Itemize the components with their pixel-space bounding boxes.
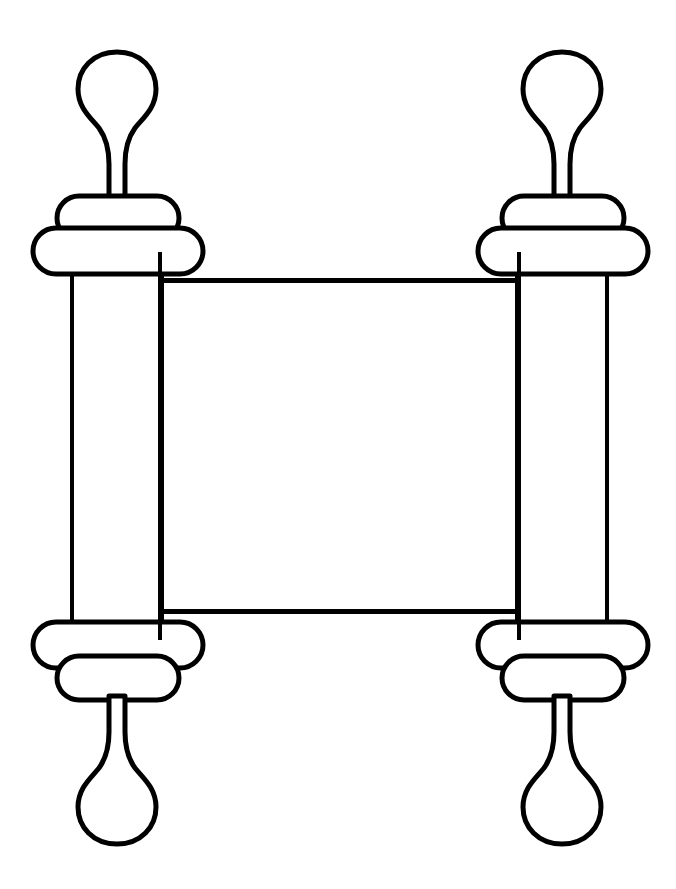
torah-scroll-illustration: [0, 0, 676, 889]
parchment-panel: [160, 280, 518, 612]
right-roller-shaft: [517, 250, 607, 642]
left-bottom-collar-inner: [57, 656, 179, 700]
artboard: [0, 0, 676, 889]
right-bottom-collar-inner: [502, 656, 624, 700]
left-roller-shaft: [72, 250, 162, 642]
right-top-collar-outer: [478, 228, 648, 274]
left-top-collar-outer: [33, 228, 203, 274]
